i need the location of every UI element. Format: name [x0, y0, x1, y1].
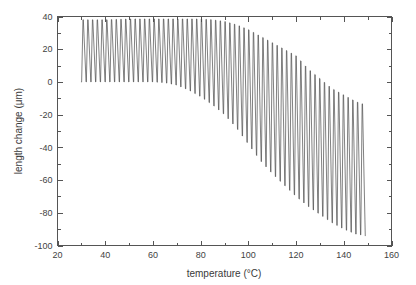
x-tick-label: 40: [100, 250, 110, 260]
x-tick-label: 20: [52, 250, 62, 260]
chart-figure: 20406080100120140160 -100-80-60-40-20020…: [0, 0, 416, 285]
y-tick-label: -80: [39, 208, 52, 218]
x-tick-label: 160: [384, 250, 399, 260]
length-change-curve: [81, 19, 365, 236]
x-axis-tick-labels: 20406080100120140160: [52, 250, 399, 260]
y-axis-tick-labels: -100-80-60-40-2002040: [34, 12, 52, 251]
chart-plot-area: 20406080100120140160 -100-80-60-40-20020…: [0, 0, 416, 285]
data-series-group: [81, 19, 365, 236]
y-tick-label: 0: [47, 77, 52, 87]
x-tick-label: 60: [148, 250, 158, 260]
y-tick-label: 20: [42, 44, 52, 54]
x-tick-label: 100: [241, 250, 256, 260]
x-axis-title: temperature (°C): [187, 268, 262, 279]
x-tick-label: 80: [196, 250, 206, 260]
y-tick-label: -40: [39, 143, 52, 153]
x-tick-label: 140: [336, 250, 351, 260]
y-axis-title: length change (μm): [13, 88, 24, 174]
y-tick-label: -60: [39, 175, 52, 185]
x-tick-label: 120: [289, 250, 304, 260]
y-tick-label: -100: [34, 241, 52, 251]
y-tick-label: 40: [42, 12, 52, 22]
y-tick-label: -20: [39, 110, 52, 120]
